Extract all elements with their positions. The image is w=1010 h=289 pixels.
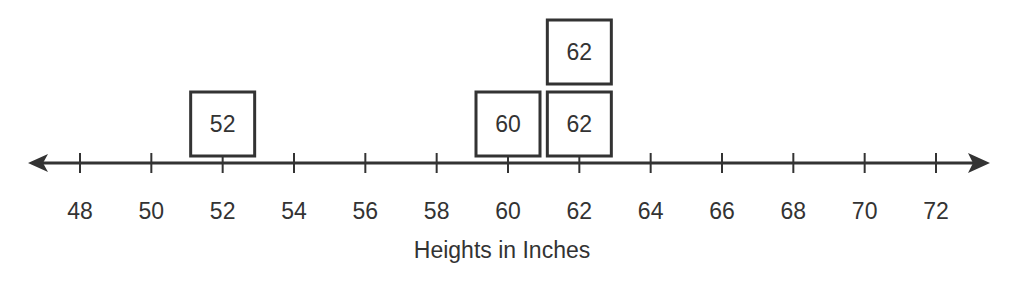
tick-label: 56	[353, 198, 379, 224]
data-box-label: 52	[210, 111, 236, 137]
number-line-chart: 48505254565860626466687072 52606262 Heig…	[0, 0, 1010, 289]
data-box-label: 62	[567, 111, 593, 137]
tick-label: 68	[781, 198, 807, 224]
tick-label: 50	[139, 198, 165, 224]
data-box-label: 62	[567, 39, 593, 65]
tick-label: 70	[852, 198, 878, 224]
tick-labels: 48505254565860626466687072	[67, 198, 949, 224]
tick-label: 48	[67, 198, 93, 224]
tick-label: 66	[709, 198, 735, 224]
data-box: 60	[476, 92, 540, 156]
data-box: 52	[191, 92, 255, 156]
tick-label: 52	[210, 198, 236, 224]
data-box: 62	[547, 92, 611, 156]
tick-label: 64	[638, 198, 664, 224]
tick-label: 58	[424, 198, 450, 224]
tick-label: 72	[923, 198, 949, 224]
tick-label: 60	[495, 198, 521, 224]
x-axis-title: Heights in Inches	[414, 237, 590, 263]
tick-label: 54	[281, 198, 307, 224]
tick-label: 62	[567, 198, 593, 224]
data-boxes: 52606262	[191, 20, 612, 156]
data-box: 62	[547, 20, 611, 84]
data-box-label: 60	[495, 111, 521, 137]
